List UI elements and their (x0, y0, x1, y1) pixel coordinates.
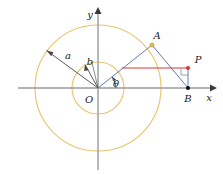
label-axis-y: y (86, 9, 93, 20)
x-axis-arrow-icon (210, 85, 217, 92)
label-theta: θ (113, 78, 119, 89)
label-semi-major-a: a (65, 50, 71, 61)
label-axis-x: x (206, 92, 212, 103)
label-origin: O (85, 94, 93, 105)
point-P-marker (186, 66, 190, 70)
label-point-P: P (194, 54, 202, 65)
label-semi-minor-b: b (87, 56, 93, 67)
segment-OA (98, 45, 152, 88)
ray-a-arrow-icon (47, 51, 54, 57)
point-B-marker (186, 86, 190, 90)
point-A-marker (150, 43, 154, 47)
geometry-diagram: a b θ A B P O x y (0, 0, 223, 175)
y-axis-arrow-icon (95, 7, 102, 14)
label-point-B: B (183, 93, 191, 104)
label-point-A: A (152, 30, 160, 41)
figure-canvas: a b θ A B P O x y (0, 0, 223, 175)
